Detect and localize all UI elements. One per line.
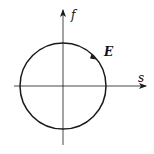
curve-label: E: [103, 45, 114, 59]
vertical-axis-label: f: [70, 8, 78, 22]
horizontal-axis-label: s: [138, 71, 144, 85]
diagram-canvas: f s E: [0, 0, 154, 154]
